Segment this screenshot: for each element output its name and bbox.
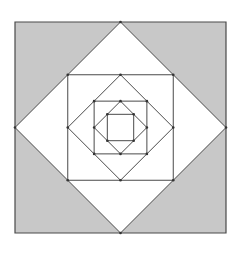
- vertex-dot: [146, 126, 149, 129]
- shapes-layer: [15, 22, 226, 233]
- vertex-dot: [132, 113, 135, 116]
- vertex-dot: [172, 73, 175, 76]
- vertex-dot: [119, 73, 122, 76]
- vertex-dot: [146, 153, 149, 156]
- vertex-dot: [119, 232, 122, 235]
- square-level-6: [107, 114, 133, 140]
- vertex-dot: [132, 139, 135, 142]
- vertex-dot: [119, 153, 122, 156]
- vertex-dot: [66, 73, 69, 76]
- vertex-dot: [14, 126, 17, 129]
- vertex-dot: [106, 139, 109, 142]
- vertex-dot: [119, 100, 122, 103]
- vertex-dot: [93, 126, 96, 129]
- vertex-dot: [93, 100, 96, 103]
- vertex-dot: [172, 179, 175, 182]
- vertex-dot: [93, 153, 96, 156]
- vertex-dot: [119, 21, 122, 24]
- vertex-dot: [146, 100, 149, 103]
- vertex-dot: [66, 126, 69, 129]
- vertex-dot: [225, 126, 228, 129]
- nested-squares-diagram: [0, 0, 241, 255]
- vertex-dot: [66, 179, 69, 182]
- vertex-dot: [106, 113, 109, 116]
- vertex-dot: [119, 179, 122, 182]
- vertex-dot: [172, 126, 175, 129]
